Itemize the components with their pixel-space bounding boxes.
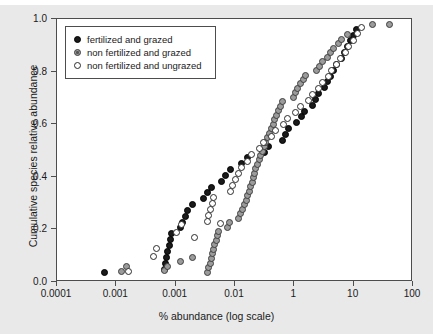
data-point-nfg (189, 254, 196, 261)
data-point-nfu (272, 127, 279, 134)
data-point-fg (163, 254, 170, 261)
data-point-nfu (153, 245, 160, 252)
data-point-fg (293, 119, 300, 126)
data-point-nfu (205, 212, 212, 219)
data-point-fg (218, 178, 225, 185)
data-point-nfg (177, 258, 184, 265)
data-point-nfu (309, 91, 316, 98)
data-point-nfu (354, 30, 361, 37)
data-point-nfu (125, 268, 132, 275)
legend-item-label: fertilized and grazed (87, 34, 173, 45)
x-tick-label: 0.001 (162, 288, 187, 299)
x-tick-label: 0.01 (224, 288, 243, 299)
data-point-nfu (227, 188, 234, 195)
y-axis-title: Cumulative species relative abundance (27, 36, 39, 276)
data-point-fg (101, 269, 108, 276)
x-tick-label: 100 (404, 288, 421, 299)
data-point-nfu (150, 253, 157, 260)
legend-marker-filled-circle-icon (74, 36, 81, 43)
legend-marker-shaded-circle-icon (74, 49, 81, 56)
data-point-nfu (297, 103, 304, 110)
legend-item: non fertilized and ungrazed (74, 59, 208, 72)
y-tick-label: 0.0 (33, 276, 47, 287)
data-point-fg (227, 166, 234, 173)
data-point-fg (189, 201, 196, 208)
data-point-nfu (209, 200, 216, 207)
data-point-nfu (229, 182, 236, 189)
data-point-nfu (337, 55, 344, 62)
x-tick-mark (293, 281, 294, 286)
data-point-fg (208, 184, 215, 191)
x-tick-label: 10 (347, 288, 358, 299)
data-point-nfg (302, 72, 309, 79)
data-point-nfu (325, 73, 332, 80)
data-point-nfu (232, 176, 239, 183)
data-point-nfg (164, 263, 171, 270)
legend-item: fertilized and grazed (74, 33, 208, 46)
data-point-nfg (279, 98, 286, 105)
x-tick-mark (56, 281, 57, 286)
data-point-nfu (350, 37, 357, 44)
legend-marker-open-circle-icon (74, 62, 81, 69)
data-point-nfu (284, 115, 291, 122)
x-tick-mark (175, 281, 176, 286)
legend-item-label: non fertilized and grazed (87, 47, 191, 58)
data-point-nfu (248, 151, 255, 158)
data-point-nfu (204, 218, 211, 225)
x-tick-mark (412, 281, 413, 286)
data-point-nfu (319, 79, 326, 86)
data-point-fg (184, 207, 191, 214)
data-point-nfu (244, 158, 251, 165)
x-tick-label: 0.0001 (41, 288, 72, 299)
data-point-nfu (207, 206, 214, 213)
data-point-nfu (178, 221, 185, 228)
chart-legend: fertilized and grazed non fertilized and… (65, 26, 216, 79)
x-tick-mark (353, 281, 354, 286)
data-point-fg (200, 195, 207, 202)
figure-container: 0.00.20.40.60.81.0 0.00010.0010.0010.011… (0, 0, 433, 334)
data-point-nfg (386, 21, 393, 28)
x-tick-label: 1 (291, 288, 297, 299)
data-point-nfu (191, 234, 198, 241)
data-point-nfu (173, 229, 180, 236)
data-point-nfg (226, 219, 233, 226)
x-tick-mark (234, 281, 235, 286)
data-point-fg (167, 236, 174, 243)
data-point-nfu (235, 170, 242, 177)
data-point-nfu (342, 49, 349, 56)
x-axis-title: % abundance (log scale) (0, 310, 433, 322)
data-point-nfu (345, 43, 352, 50)
y-tick-label: 1.0 (33, 13, 47, 24)
data-point-nfu (238, 164, 245, 171)
data-point-nfu (333, 61, 340, 68)
x-tick-mark (115, 281, 116, 286)
data-point-nfu (358, 24, 365, 31)
legend-item-label: non fertilized and ungrazed (87, 60, 202, 71)
data-point-nfu (268, 133, 275, 140)
legend-item: non fertilized and grazed (74, 46, 208, 59)
data-point-nfg (369, 21, 376, 28)
data-point-fg (222, 172, 229, 179)
x-tick-label: 0.001 (103, 288, 128, 299)
data-point-nfu (305, 97, 312, 104)
figure-top-margin (0, 0, 433, 5)
data-point-nfg (215, 228, 222, 235)
data-point-nfu (210, 194, 217, 201)
